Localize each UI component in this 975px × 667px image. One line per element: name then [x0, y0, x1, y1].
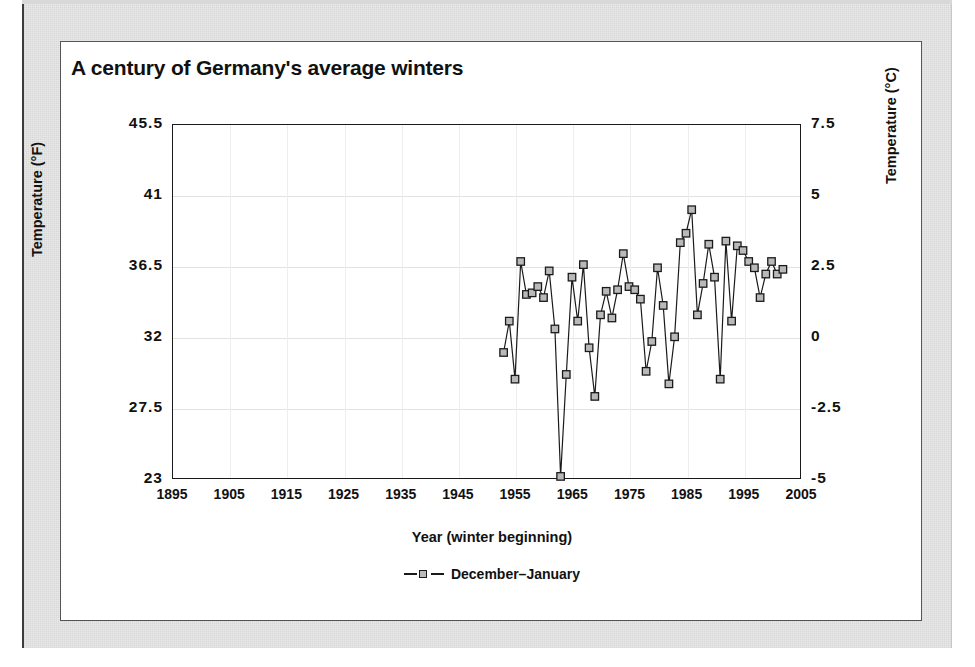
data-point-marker [659, 302, 666, 309]
data-point-marker [602, 288, 609, 295]
screenshot-page: A century of Germany's average winters 4… [0, 0, 975, 667]
data-point-marker [608, 314, 615, 321]
x-axis-tick-11: 2005 [771, 486, 831, 502]
data-point-marker [591, 393, 598, 400]
data-point-marker [637, 295, 644, 302]
y-axis-left-tick-2: 36.5 [61, 256, 163, 274]
x-axis-tick-0: 1895 [142, 486, 202, 502]
y-axis-left-tick-0: 45.5 [61, 114, 163, 132]
mat-top-shade [22, 0, 952, 4]
data-point-marker [665, 380, 672, 387]
y-axis-left-title: Temperature (°F) [29, 57, 45, 257]
plot-area [172, 124, 801, 479]
data-point-marker [762, 270, 769, 277]
x-axis-tick-8: 1975 [599, 486, 659, 502]
x-axis-tick-3: 1925 [314, 486, 374, 502]
x-axis-tick-9: 1985 [657, 486, 717, 502]
y-axis-right-tick-5: -5 [811, 469, 827, 487]
data-point-marker [585, 344, 592, 351]
data-point-marker [711, 273, 718, 280]
data-point-marker [768, 258, 775, 265]
legend-label-december-january: December–January [451, 566, 580, 582]
y-axis-right-tick-4: -2.5 [811, 398, 842, 416]
data-point-marker [500, 349, 507, 356]
data-point-marker [620, 250, 627, 257]
x-axis-tick-5: 1945 [428, 486, 488, 502]
y-axis-right-title: Temperature (°C) [883, 0, 899, 184]
data-point-marker [517, 258, 524, 265]
data-point-marker [728, 317, 735, 324]
data-point-marker [631, 286, 638, 293]
data-point-marker [648, 338, 655, 345]
data-point-marker [705, 241, 712, 248]
data-point-marker [506, 317, 513, 324]
data-point-marker [597, 311, 604, 318]
y-axis-right-tick-1: 5 [811, 185, 821, 203]
data-point-marker [568, 273, 575, 280]
data-point-marker [574, 317, 581, 324]
data-point-marker [699, 280, 706, 287]
data-point-marker [751, 264, 758, 271]
data-point-marker [756, 294, 763, 301]
data-point-marker [739, 247, 746, 254]
data-point-marker [677, 239, 684, 246]
data-point-marker [716, 375, 723, 382]
y-axis-left-tick-1: 41 [61, 185, 163, 203]
x-axis-tick-1: 1905 [199, 486, 259, 502]
data-point-marker [545, 267, 552, 274]
x-axis-title: Year (winter beginning) [61, 529, 923, 545]
data-point-marker [654, 264, 661, 271]
y-axis-right-tick-3: 0 [811, 327, 821, 345]
y-axis-left-tick-3: 32 [61, 327, 163, 345]
data-point-marker [642, 368, 649, 375]
x-axis-tick-6: 1955 [485, 486, 545, 502]
chart-card: A century of Germany's average winters 4… [60, 41, 922, 621]
data-point-marker [511, 375, 518, 382]
data-point-marker [671, 333, 678, 340]
x-axis-tick-7: 1965 [542, 486, 602, 502]
data-point-marker [682, 230, 689, 237]
data-point-marker [688, 206, 695, 213]
data-series-layer [173, 125, 800, 478]
data-point-marker [551, 325, 558, 332]
data-point-marker [563, 371, 570, 378]
x-axis-tick-10: 1995 [714, 486, 774, 502]
data-point-marker [614, 286, 621, 293]
data-point-marker [779, 266, 786, 273]
data-point-marker [540, 294, 547, 301]
legend-marker-icon [404, 568, 444, 580]
data-point-marker [557, 473, 564, 480]
x-axis-tick-2: 1915 [256, 486, 316, 502]
data-point-marker [580, 261, 587, 268]
data-point-marker [722, 237, 729, 244]
y-axis-right-tick-2: 2.5 [811, 256, 836, 274]
y-axis-left-tick-4: 27.5 [61, 398, 163, 416]
legend: December–January [61, 566, 923, 582]
x-axis-tick-4: 1935 [371, 486, 431, 502]
data-point-marker [694, 311, 701, 318]
page-title: A century of Germany's average winters [71, 56, 463, 80]
data-point-marker [534, 283, 541, 290]
y-axis-left-tick-5: 23 [61, 469, 163, 487]
y-axis-right-tick-0: 7.5 [811, 114, 836, 132]
